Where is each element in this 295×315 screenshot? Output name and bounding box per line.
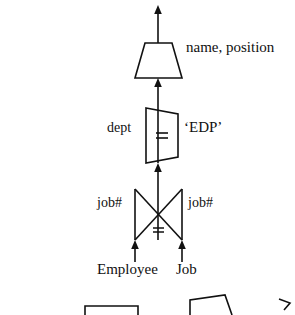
projection-trapezoid-shape bbox=[135, 43, 182, 78]
selection-operator[interactable] bbox=[146, 108, 178, 163]
edge-arrow-head bbox=[131, 240, 139, 249]
selection-attribute-label: dept bbox=[107, 121, 131, 135]
clipped-rectangle-icon bbox=[85, 306, 138, 315]
edge-arrow-head bbox=[154, 78, 162, 87]
edge-employee-to-join bbox=[131, 240, 139, 262]
clipped-trapezoid-icon bbox=[190, 295, 232, 315]
relation-job-label: Job bbox=[176, 262, 197, 277]
join-right-attribute-label: job# bbox=[188, 196, 213, 210]
edge-job-to-join bbox=[178, 240, 186, 262]
edge-arrow-head bbox=[154, 163, 162, 172]
clipped-arrow-corner-icon bbox=[279, 299, 290, 310]
join-left-attribute-label: job# bbox=[97, 196, 122, 210]
selection-parallelogram-shape bbox=[146, 108, 178, 163]
selection-value-label: ‘EDP’ bbox=[184, 120, 222, 135]
output-arrow bbox=[154, 5, 162, 43]
output-arrow-head bbox=[154, 5, 162, 14]
edge-arrow-head bbox=[178, 240, 186, 249]
edge-selection-to-projection bbox=[154, 78, 162, 163]
relation-employee-label: Employee bbox=[97, 262, 158, 277]
projection-operator[interactable] bbox=[135, 43, 182, 78]
projection-attributes-label: name, position bbox=[186, 40, 274, 55]
